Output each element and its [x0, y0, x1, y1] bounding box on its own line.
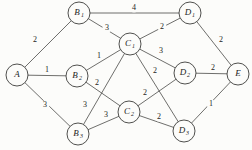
graph-node-C2[interactable]: C2 [118, 101, 140, 123]
graph-edge-A-B2 [28, 75, 66, 76]
node-label-B1: B [74, 7, 80, 17]
graph-node-D3[interactable]: D3 [173, 120, 195, 142]
graph-edge-B2-C2 [86, 82, 120, 105]
edge-weight-B1-C1: 3 [105, 23, 109, 32]
graph-node-B3[interactable]: B3 [67, 123, 89, 145]
node-subscript-C2: 2 [131, 111, 134, 117]
graph-node-C1[interactable]: C1 [119, 33, 141, 55]
edge-weight-C2-D2: 2 [143, 88, 147, 97]
edge-weight-C2-D3: 2 [157, 112, 161, 121]
node-label-C1: C [125, 38, 132, 48]
edge-weight-B2-C1: 1 [97, 51, 101, 60]
node-label-E: E [234, 68, 241, 78]
edge-weight-B1-D1: 4 [132, 3, 136, 12]
edge-weight-D1-E: 2 [219, 35, 223, 44]
graph-edge-A-B1 [25, 21, 71, 67]
node-subscript-D2: 2 [187, 72, 190, 78]
node-label-D2: D [179, 67, 187, 77]
graph-edge-D1-E [197, 22, 231, 66]
edge-weight-D2-E: 2 [211, 63, 215, 72]
node-subscript-B1: 1 [81, 12, 84, 18]
edge-weight-D3-E: 1 [209, 99, 213, 108]
graph-figure: 21343221322322321 AB1B2B3C1C2D1D2D3E [0, 0, 252, 150]
node-label-D3: D [178, 125, 186, 135]
node-subscript-C1: 1 [132, 43, 135, 49]
edge-weight-C1-D1: 2 [160, 22, 164, 31]
node-subscript-B3: 3 [79, 133, 83, 139]
graph-node-B1[interactable]: B1 [68, 2, 90, 24]
node-label-B2: B [72, 70, 78, 80]
node-label-D1: D [184, 7, 192, 17]
edge-weight-B3-C2: 3 [104, 110, 108, 119]
edge-weight-C1-B3: 3 [83, 100, 87, 109]
edge-weight-C1-D3: 2 [153, 66, 157, 75]
edge-weight-B2-C2: 2 [95, 78, 99, 87]
node-subscript-B2: 2 [79, 75, 82, 81]
graph-canvas: 21343221322322321 AB1B2B3C1C2D1D2D3E [0, 0, 252, 150]
edge-weight-A-B2: 1 [45, 65, 49, 74]
graph-node-B2[interactable]: B2 [66, 65, 88, 87]
node-label-B3: B [73, 128, 79, 138]
edge-weight-A-B1: 2 [33, 35, 37, 44]
edge-weight-C1-D2: 3 [159, 46, 163, 55]
graph-node-D1[interactable]: D1 [179, 2, 201, 24]
edge-weight-A-B3: 3 [43, 100, 47, 109]
node-label-A: A [13, 69, 20, 79]
graph-node-E[interactable]: E [227, 63, 249, 85]
node-label-C2: C [124, 106, 131, 116]
graph-edge-B2-C1 [86, 50, 120, 71]
graph-node-A[interactable]: A [6, 64, 28, 86]
node-subscript-D1: 1 [192, 12, 195, 18]
graph-edge-D2-E [196, 73, 227, 74]
node-subscript-D3: 3 [185, 130, 189, 136]
graph-node-D2[interactable]: D2 [174, 62, 196, 84]
